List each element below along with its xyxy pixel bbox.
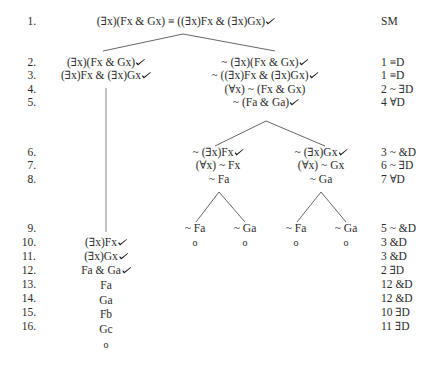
- justification: 2 ∃D: [381, 264, 404, 277]
- root-formula: (∃x)(Fx & Gx) ≡ ((∃x)Fx & (∃x)Gx): [97, 15, 275, 28]
- line-number: 6.: [12, 146, 36, 159]
- line-number: 4.: [12, 83, 36, 96]
- root-left-branch-line: [103, 34, 183, 51]
- leaf-formula: ~ Fa: [286, 222, 307, 235]
- check-mark-icon: [338, 149, 347, 156]
- leaf-formula: ~ Ga: [335, 222, 358, 235]
- row8-left-sub-left-line: [196, 192, 219, 222]
- check-mark-icon: [266, 18, 275, 25]
- right-branch-formula: (∀x) ~ (Fx & Gx): [225, 83, 306, 96]
- left-branch-formula: (∃x)Fx & (∃x)Gx: [61, 69, 151, 82]
- sub-left-formula: ~ Fa: [209, 173, 230, 186]
- right-branch-formula: ~ ((∃x)Fx & (∃x)Gx): [212, 69, 319, 82]
- justification: SM: [381, 15, 398, 28]
- justification: 4 ∀D: [381, 96, 405, 109]
- open-branch-marker: o: [193, 236, 198, 249]
- open-branch-marker: o: [344, 236, 349, 249]
- justification: 12 &D: [381, 278, 413, 291]
- line-number: 9.: [12, 222, 36, 235]
- check-mark-icon: [290, 99, 299, 106]
- row8-right-sub-left-line: [297, 192, 321, 222]
- leaf-formula: ~ Fa: [185, 222, 206, 235]
- left-branch-formula: Fb: [100, 308, 112, 321]
- sub-right-formula: (∀x) ~ Gx: [298, 159, 344, 172]
- open-branch-marker: o: [294, 236, 299, 249]
- left-branch-formula: (∃x)Fx: [85, 236, 127, 249]
- open-branch-marker: o: [104, 338, 109, 351]
- line-number: 11.: [12, 250, 36, 263]
- line-number: 12.: [12, 264, 36, 277]
- line-number: 10.: [12, 236, 36, 249]
- line-number: 14.: [12, 292, 36, 305]
- check-mark-icon: [142, 72, 151, 79]
- line-number: 3.: [12, 69, 36, 82]
- left-branch-formula: Fa: [100, 279, 112, 292]
- sub-right-formula: ~ Ga: [310, 173, 333, 186]
- line-number: 15.: [12, 306, 36, 319]
- open-branch-marker: o: [243, 236, 248, 249]
- check-mark-icon: [300, 59, 309, 66]
- row8-right-sub-right-line: [321, 192, 346, 222]
- justification: 1 ≡D: [381, 69, 404, 82]
- justification: 1 ≡D: [381, 56, 404, 69]
- row5-right-branch-line: [266, 121, 325, 146]
- justification: 10 ∃D: [381, 306, 410, 319]
- row8-left-sub-right-line: [219, 192, 245, 222]
- line-number: 13.: [12, 278, 36, 291]
- justification: 7 ∀D: [381, 173, 405, 186]
- justification: 12 &D: [381, 292, 413, 305]
- sub-left-formula: ~ (∃x)Fx: [193, 146, 244, 159]
- row5-left-branch-line: [215, 121, 266, 146]
- left-branch-formula: Ga: [99, 294, 112, 307]
- line-number: 7.: [12, 159, 36, 172]
- left-branch-formula: (∃x)Gx: [84, 250, 128, 263]
- right-branch-formula: ~ (Fa & Ga): [233, 96, 299, 109]
- sub-left-formula: (∀x) ~ Fx: [196, 159, 240, 172]
- sub-right-formula: ~ (∃x)Gx: [295, 146, 348, 159]
- check-mark-icon: [309, 72, 318, 79]
- justification: 11 ∃D: [381, 320, 410, 333]
- check-mark-icon: [234, 149, 243, 156]
- root-right-branch-line: [183, 34, 275, 51]
- line-number: 8.: [12, 173, 36, 186]
- left-branch-formula: (∃x)(Fx & Gx): [67, 56, 145, 69]
- justification: 6 ~ ∃D: [381, 159, 413, 172]
- line-number: 16.: [12, 320, 36, 333]
- leaf-formula: ~ Ga: [234, 222, 257, 235]
- justification: 3 &D: [381, 236, 407, 249]
- check-mark-icon: [119, 253, 128, 260]
- left-branch-formula: Fa & Ga: [81, 264, 131, 277]
- check-mark-icon: [122, 267, 131, 274]
- right-branch-formula: ~ (∃x)(Fx & Gx): [221, 56, 308, 69]
- left-branch-formula: Gc: [99, 323, 112, 336]
- justification: 5 ~ &D: [381, 222, 416, 235]
- justification: 3 &D: [381, 250, 407, 263]
- line-number: 5.: [12, 96, 36, 109]
- justification: 2 ~ ∃D: [381, 83, 413, 96]
- justification: 3 ~ &D: [381, 146, 416, 159]
- truth-tree-diagram: 1. 2. 3. 4. 5. 6. 7. 8. 9. 10. 11. 12. 1…: [0, 0, 442, 366]
- check-mark-icon: [136, 59, 145, 66]
- check-mark-icon: [118, 239, 127, 246]
- line-number: 2.: [12, 56, 36, 69]
- line-number: 1.: [12, 15, 36, 28]
